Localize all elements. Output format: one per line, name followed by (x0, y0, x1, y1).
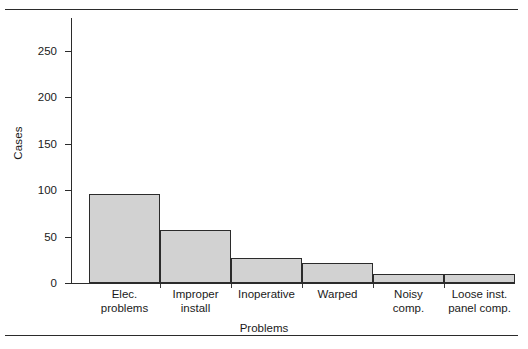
x-axis-line (71, 283, 515, 284)
y-axis-tick (65, 51, 71, 52)
y-axis-tick (65, 237, 71, 238)
x-axis-category-label-line: Warped (302, 288, 373, 302)
x-axis-category-label-line: Inoperative (231, 288, 302, 302)
x-axis-category-label-line: install (160, 302, 231, 316)
y-axis-tick-label: 0 (51, 277, 57, 289)
bar (302, 263, 373, 283)
figure-bottom-rule (5, 335, 518, 336)
x-axis-category-separator (160, 284, 161, 288)
x-axis-category-label: Improperinstall (160, 288, 231, 315)
x-axis-category-label: Loose inst.panel comp. (444, 288, 515, 315)
x-axis-category-label: Warped (302, 288, 373, 302)
bar (444, 274, 515, 283)
y-axis-tick (65, 283, 71, 284)
bar (89, 194, 160, 283)
x-axis-category-label-line: problems (89, 302, 160, 316)
x-axis-category-separator (231, 284, 232, 288)
bar (160, 230, 231, 283)
y-axis-tick-label: 100 (38, 184, 57, 196)
x-axis-category-label-line: Noisy (373, 288, 444, 302)
y-axis-tick (65, 97, 71, 98)
x-axis-category-label: Elec.problems (89, 288, 160, 315)
x-axis-category-label-line: Improper (160, 288, 231, 302)
x-axis-category-label: Noisycomp. (373, 288, 444, 315)
bar-series (89, 18, 515, 283)
y-axis-line (71, 18, 72, 283)
y-axis-tick-label: 150 (38, 138, 57, 150)
x-axis-category-separator (302, 284, 303, 288)
x-axis-category-label: Inoperative (231, 288, 302, 302)
y-axis-tick (65, 144, 71, 145)
x-axis-category-separator (373, 284, 374, 288)
bar (231, 258, 302, 283)
x-axis-title: Problems (0, 322, 528, 334)
bar-chart-figure: Cases 050100150200250 Elec.problemsImpro… (0, 0, 528, 349)
x-axis-category-label-line: Loose inst. (444, 288, 515, 302)
figure-top-rule (5, 9, 518, 10)
y-axis-title: Cases (12, 126, 24, 160)
x-axis-category-separator (444, 284, 445, 288)
x-axis-category-label-line: Elec. (89, 288, 160, 302)
plot-area: 050100150200250 (71, 18, 515, 283)
bar (373, 274, 444, 283)
y-axis-tick (65, 190, 71, 191)
y-axis-tick-label: 50 (44, 231, 57, 243)
y-axis-tick-label: 200 (38, 91, 57, 103)
y-axis-tick-label: 250 (38, 45, 57, 57)
x-axis-category-label-line: panel comp. (444, 302, 515, 316)
x-axis-category-label-line: comp. (373, 302, 444, 316)
